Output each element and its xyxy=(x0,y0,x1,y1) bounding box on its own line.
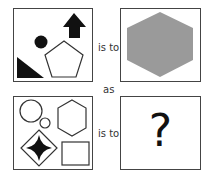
rectangle-icon xyxy=(62,142,89,165)
as-label: as xyxy=(103,84,114,95)
top-right-figure-box xyxy=(120,8,201,82)
up-arrow-icon xyxy=(63,13,86,38)
pentagon-icon xyxy=(45,41,83,77)
gray-hexagon-icon xyxy=(127,12,193,77)
is-to-label-bottom: is to xyxy=(98,128,119,139)
black-circle-icon xyxy=(35,36,48,49)
question-mark: ? xyxy=(121,105,200,156)
top-left-figure-box xyxy=(13,8,93,82)
hexagon-icon xyxy=(58,100,86,136)
is-to-label-top: is to xyxy=(98,42,119,53)
black-triangle-icon xyxy=(17,57,44,78)
small-circle-icon xyxy=(40,118,50,128)
bottom-left-figure-box xyxy=(13,96,93,170)
large-circle-icon xyxy=(20,100,42,122)
answer-box: ? xyxy=(120,96,201,170)
